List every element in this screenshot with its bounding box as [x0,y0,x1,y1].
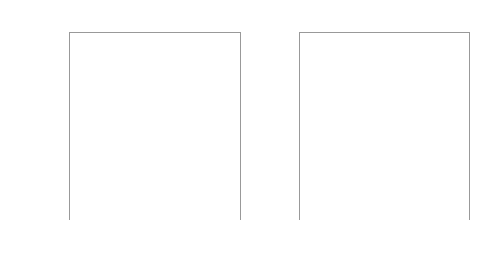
men-plot-area [69,32,241,220]
men-chart [0,0,245,259]
women-chart [240,0,483,259]
women-plot-area [299,32,470,220]
